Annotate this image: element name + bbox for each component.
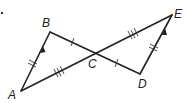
label-a: A <box>7 88 16 102</box>
tick-marks-ce <box>128 28 138 39</box>
label-e: E <box>174 7 183 21</box>
tick-marks-ac <box>54 66 64 77</box>
label-d: D <box>138 77 147 91</box>
marker-dot <box>1 12 3 14</box>
label-b: B <box>42 16 50 30</box>
label-c: C <box>88 57 97 71</box>
segment-ab <box>21 32 50 91</box>
geometry-diagram: A B C D E <box>0 0 188 103</box>
